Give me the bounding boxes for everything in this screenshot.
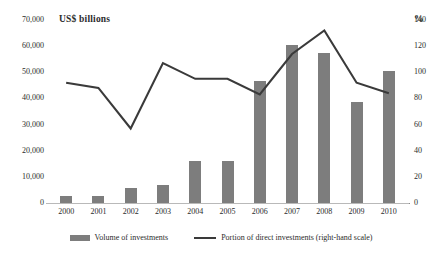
left-y-tick-label: 30,000 xyxy=(4,121,44,129)
right-y-axis: 140120100806040200 xyxy=(404,0,438,261)
line-path xyxy=(66,30,389,128)
right-y-tick-label: 40 xyxy=(414,147,442,155)
right-y-tick-label: 100 xyxy=(414,68,442,76)
x-axis-baseline xyxy=(46,203,409,204)
legend-item-volume: Volume of investments xyxy=(70,233,169,242)
left-y-tick-label: 40,000 xyxy=(4,94,44,102)
legend-label-portion: Portion of direct investments (right-han… xyxy=(221,233,372,242)
legend-label-volume: Volume of investments xyxy=(95,233,169,242)
chart-legend: Volume of investments Portion of direct … xyxy=(0,233,442,242)
bar-swatch-icon xyxy=(70,235,90,241)
line-series xyxy=(50,20,405,203)
right-y-tick-label: 20 xyxy=(414,173,442,181)
left-y-tick-label: 60,000 xyxy=(4,42,44,50)
legend-item-portion: Portion of direct investments (right-han… xyxy=(194,233,372,242)
line-swatch-icon xyxy=(194,237,216,239)
chart-container: US$ billions % 70,00060,00050,00040,0003… xyxy=(0,0,442,261)
left-y-axis: 70,00060,00050,00040,00030,00020,00010,0… xyxy=(4,0,44,261)
left-y-tick-label: 20,000 xyxy=(4,147,44,155)
right-y-tick-label: 0 xyxy=(414,199,442,207)
plot-area xyxy=(50,20,405,203)
x-tick-label: 2010 xyxy=(369,207,409,217)
right-y-tick-label: 120 xyxy=(414,42,442,50)
left-y-tick-label: 50,000 xyxy=(4,68,44,76)
left-y-tick-label: 0 xyxy=(4,199,44,207)
right-y-tick-label: 80 xyxy=(414,94,442,102)
left-y-tick-label: 70,000 xyxy=(4,16,44,24)
right-y-tick-label: 140 xyxy=(414,16,442,24)
left-y-tick-label: 10,000 xyxy=(4,173,44,181)
right-y-tick-label: 60 xyxy=(414,121,442,129)
